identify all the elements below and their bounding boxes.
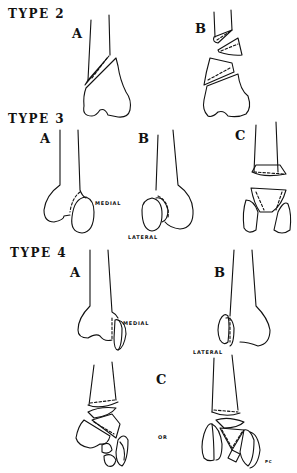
type-2a-femur-drawing — [84, 15, 131, 117]
fracture-diagram — [0, 0, 297, 473]
type-3c-femur-drawing — [243, 122, 290, 233]
type-4a-femur-drawing — [78, 250, 126, 350]
type-3a-femur-drawing — [44, 130, 94, 233]
type-4c-left-femur-drawing — [76, 362, 128, 466]
type-4c-right-femur-drawing — [202, 355, 260, 468]
type-4b-femur-drawing — [218, 250, 270, 346]
type-3b-femur-drawing — [142, 130, 193, 231]
type-2b-femur-drawing — [204, 10, 250, 117]
